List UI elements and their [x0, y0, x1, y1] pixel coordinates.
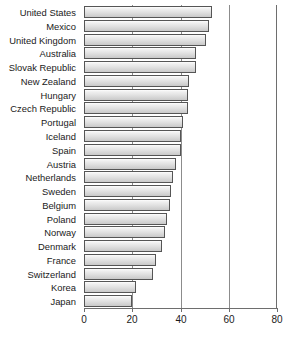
- bar-row: [84, 184, 277, 199]
- bar-row: [84, 143, 277, 158]
- bar-row: [84, 46, 277, 61]
- category-label: Mexico: [46, 19, 76, 34]
- bar: [84, 268, 153, 280]
- category-label: Australia: [40, 46, 76, 61]
- tick-label-0: 0: [69, 314, 99, 325]
- bar: [84, 281, 136, 293]
- category-label: Poland: [47, 212, 76, 227]
- category-label: Norway: [44, 225, 76, 240]
- category-label: Japan: [50, 294, 76, 309]
- plot-area: [84, 5, 277, 308]
- category-label: Spain: [52, 143, 76, 158]
- bar: [84, 171, 173, 183]
- category-label: Iceland: [46, 129, 76, 144]
- category-label: Sweden: [42, 184, 76, 199]
- tick-label-20: 20: [117, 314, 147, 325]
- category-label: France: [47, 253, 76, 268]
- bar-row: [84, 212, 277, 227]
- bar: [84, 199, 170, 211]
- bar-row: [84, 19, 277, 34]
- bar: [84, 20, 209, 32]
- category-label: United Kingdom: [9, 33, 76, 48]
- tick-mark-20: [132, 308, 133, 312]
- bar-row: [84, 5, 277, 20]
- bar-row: [84, 60, 277, 75]
- tick-mark-80: [277, 308, 278, 312]
- category-label: Austria: [47, 157, 76, 172]
- category-label: Hungary: [41, 88, 76, 103]
- bar: [84, 254, 156, 266]
- bar: [84, 116, 183, 128]
- bar-row: [84, 101, 277, 116]
- tick-label-60: 60: [214, 314, 244, 325]
- bar: [84, 47, 196, 59]
- category-label: New Zealand: [21, 74, 76, 89]
- tick-mark-0: [84, 308, 85, 312]
- bar-row: [84, 88, 277, 103]
- bar-row: [84, 267, 277, 282]
- bar: [84, 102, 188, 114]
- bar-chart: United StatesMexicoUnited KingdomAustral…: [0, 0, 291, 337]
- tick-label-80: 80: [262, 314, 291, 325]
- tick-label-40: 40: [166, 314, 196, 325]
- bar-row: [84, 115, 277, 130]
- bar-row: [84, 294, 277, 309]
- bar: [84, 226, 165, 238]
- bar-row: [84, 33, 277, 48]
- bar-row: [84, 157, 277, 172]
- bar: [84, 61, 196, 73]
- category-label: Netherlands: [25, 170, 76, 185]
- bar-row: [84, 280, 277, 295]
- bar-row: [84, 198, 277, 213]
- bar-row: [84, 225, 277, 240]
- category-label: Korea: [51, 280, 76, 295]
- tick-mark-40: [181, 308, 182, 312]
- bar: [84, 185, 171, 197]
- category-label: Belgium: [42, 198, 76, 213]
- category-label: Slovak Republic: [9, 60, 76, 75]
- bar: [84, 240, 162, 252]
- bar: [84, 295, 132, 307]
- bar-row: [84, 239, 277, 254]
- bar-row: [84, 129, 277, 144]
- category-label: Czech Republic: [10, 101, 76, 116]
- category-label: United States: [20, 5, 76, 20]
- bar: [84, 213, 167, 225]
- category-label: Denmark: [38, 239, 76, 254]
- bar: [84, 144, 181, 156]
- bar: [84, 158, 176, 170]
- bar: [84, 75, 189, 87]
- tick-mark-60: [229, 308, 230, 312]
- bar: [84, 34, 206, 46]
- bar: [84, 130, 181, 142]
- bar-row: [84, 253, 277, 268]
- bar-row: [84, 170, 277, 185]
- category-axis: United StatesMexicoUnited KingdomAustral…: [0, 5, 80, 308]
- bar: [84, 89, 188, 101]
- category-label: Portugal: [41, 115, 76, 130]
- bar-row: [84, 74, 277, 89]
- category-label: Switzerland: [28, 267, 76, 282]
- bar: [84, 6, 212, 18]
